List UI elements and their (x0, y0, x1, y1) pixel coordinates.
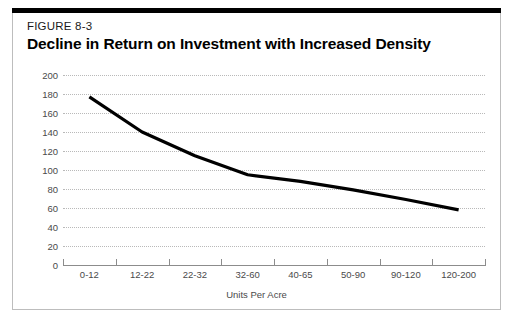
series-polyline (89, 97, 458, 210)
x-tick-label: 12-22 (130, 269, 154, 280)
y-tick-label: 120 (42, 146, 58, 157)
chart-series-line (63, 75, 485, 265)
y-tick-label: 80 (47, 184, 58, 195)
y-tick-label: 40 (47, 222, 58, 233)
y-tick-label: 180 (42, 89, 58, 100)
y-tick-label: 140 (42, 127, 58, 138)
x-tick-mark (485, 259, 486, 266)
x-tick-mark (169, 259, 170, 266)
x-tick-label: 0-12 (80, 269, 99, 280)
y-tick-label: 160 (42, 108, 58, 119)
x-tick-label: 22-32 (183, 269, 207, 280)
y-tick-label: 20 (47, 241, 58, 252)
y-tick-label: 60 (47, 203, 58, 214)
x-tick-label: 40-65 (288, 269, 312, 280)
x-tick-mark (63, 259, 64, 266)
x-tick-mark (327, 259, 328, 266)
x-tick-mark (380, 259, 381, 266)
y-tick-label: 200 (42, 70, 58, 81)
y-tick-label: 0 (53, 260, 58, 271)
chart-plot-wrapper: Return on Costs (%) 02040608010012014016… (0, 0, 513, 320)
x-tick-mark (116, 259, 117, 266)
y-axis-tick-labels: 020406080100120140160180200 (30, 75, 58, 265)
figure-container: FIGURE 8-3 Decline in Return on Investme… (0, 0, 513, 320)
x-axis-title: Units Per Acre (0, 289, 513, 300)
x-tick-mark (274, 259, 275, 266)
x-tick-label: 50-90 (341, 269, 365, 280)
x-tick-mark (432, 259, 433, 266)
x-tick-label: 32-60 (235, 269, 259, 280)
x-tick-label: 120-200 (441, 269, 476, 280)
y-tick-label: 100 (42, 165, 58, 176)
x-tick-label: 90-120 (391, 269, 421, 280)
x-tick-mark (221, 259, 222, 266)
